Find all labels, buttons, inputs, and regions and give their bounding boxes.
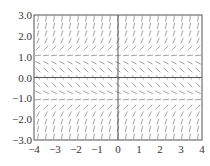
x-tick-label: 1 bbox=[136, 143, 142, 155]
slope-segment bbox=[36, 105, 40, 109]
slope-segment bbox=[141, 126, 142, 132]
slope-segment bbox=[125, 30, 127, 36]
slope-segment bbox=[85, 38, 88, 44]
slope-segment bbox=[44, 68, 49, 72]
slope-segment bbox=[37, 126, 38, 132]
slope-segment bbox=[100, 68, 105, 72]
slope-segment bbox=[107, 61, 113, 64]
slope-segment bbox=[109, 111, 112, 117]
slope-segment bbox=[86, 133, 87, 139]
slope-segment bbox=[94, 16, 95, 22]
slope-segment bbox=[110, 16, 111, 22]
slope-segment bbox=[37, 119, 39, 125]
slope-segment bbox=[69, 23, 70, 29]
slope-segment bbox=[85, 30, 87, 36]
slope-segment bbox=[67, 91, 73, 94]
slope-segment bbox=[54, 133, 55, 139]
slope-segment bbox=[179, 55, 185, 56]
x-axis-ticks: −4−3−2−101234 bbox=[28, 143, 205, 155]
slope-segment bbox=[44, 105, 48, 109]
slope-segment bbox=[165, 111, 168, 117]
slope-segment bbox=[197, 126, 198, 132]
slope-segment bbox=[37, 38, 40, 44]
slope-segment bbox=[76, 83, 81, 87]
slope-segment bbox=[46, 133, 47, 139]
x-tick-label: −3 bbox=[49, 143, 61, 155]
slope-segment bbox=[142, 16, 143, 22]
slope-segment bbox=[187, 61, 193, 64]
slope-segment bbox=[91, 91, 97, 94]
slope-segment bbox=[124, 46, 128, 50]
slope-segment bbox=[43, 99, 49, 100]
slope-segment bbox=[172, 46, 176, 50]
slope-segment bbox=[148, 46, 152, 50]
slope-segment bbox=[100, 105, 104, 109]
slope-segment bbox=[84, 68, 89, 72]
slope-segment bbox=[45, 111, 48, 117]
slope-segment bbox=[180, 46, 184, 50]
slope-segment bbox=[99, 99, 105, 100]
slope-segment bbox=[61, 111, 64, 117]
slope-segment bbox=[69, 30, 71, 36]
slope-segment bbox=[75, 55, 81, 56]
slope-segment bbox=[163, 61, 169, 64]
slope-segment bbox=[52, 68, 57, 72]
slope-segment bbox=[189, 111, 192, 117]
slope-segment bbox=[43, 91, 49, 94]
slope-segment bbox=[51, 61, 57, 64]
slope-segment bbox=[148, 68, 153, 72]
slope-segment bbox=[108, 83, 113, 87]
slope-segment bbox=[181, 111, 184, 117]
slope-segment bbox=[189, 119, 191, 125]
slope-segment bbox=[181, 119, 183, 125]
slope-segment bbox=[197, 38, 200, 44]
slope-segment bbox=[150, 16, 151, 22]
slope-segment bbox=[155, 99, 161, 100]
slope-segment bbox=[171, 61, 177, 64]
slope-segment bbox=[179, 91, 185, 94]
slope-segment bbox=[36, 83, 41, 87]
slope-segment bbox=[68, 46, 72, 50]
slope-segment bbox=[181, 23, 182, 29]
slope-segment bbox=[75, 61, 81, 64]
slope-segment bbox=[110, 133, 111, 139]
slope-segment bbox=[182, 16, 183, 22]
slope-segment bbox=[125, 126, 126, 132]
slope-segment bbox=[108, 46, 112, 50]
slope-segment bbox=[140, 83, 145, 87]
y-tick-label: −1.0 bbox=[12, 92, 32, 104]
x-tick-label: −1 bbox=[91, 143, 103, 155]
slope-segment bbox=[37, 30, 39, 36]
slope-segment bbox=[92, 68, 97, 72]
slope-segment bbox=[164, 83, 169, 87]
slope-segment bbox=[108, 105, 112, 109]
slope-segment bbox=[45, 38, 48, 44]
slope-segment bbox=[101, 119, 103, 125]
slope-segment bbox=[54, 16, 55, 22]
slope-segment bbox=[131, 91, 137, 94]
slope-segment bbox=[43, 55, 49, 56]
slope-segment bbox=[187, 99, 193, 100]
slope-segment bbox=[53, 119, 55, 125]
slope-segment bbox=[93, 30, 95, 36]
slope-segment bbox=[69, 38, 72, 44]
slope-segment bbox=[107, 99, 113, 100]
slope-segment bbox=[172, 68, 177, 72]
slope-segment bbox=[179, 99, 185, 100]
slope-segment bbox=[59, 91, 65, 94]
slope-segment bbox=[43, 61, 49, 64]
slope-segment bbox=[45, 23, 46, 29]
slope-segment bbox=[101, 23, 102, 29]
slope-segment bbox=[125, 119, 127, 125]
slope-segment bbox=[86, 16, 87, 22]
slope-segment bbox=[197, 23, 198, 29]
slope-segment bbox=[180, 105, 184, 109]
slope-segment bbox=[181, 30, 183, 36]
slope-segment bbox=[100, 83, 105, 87]
slope-segment bbox=[61, 119, 63, 125]
slope-segment bbox=[60, 105, 64, 109]
slope-segment bbox=[140, 46, 144, 50]
slope-segment bbox=[53, 111, 56, 117]
slope-segment bbox=[59, 61, 65, 64]
slope-segment bbox=[99, 55, 105, 56]
